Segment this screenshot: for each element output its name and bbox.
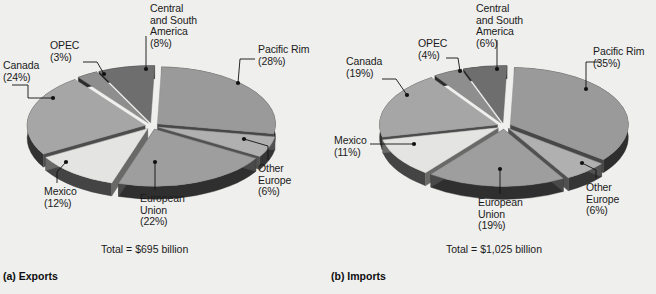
- label-other-europe-imports: OtherEurope(6%): [586, 182, 619, 217]
- label-opec-exports: OPEC(3%): [50, 40, 79, 63]
- label-canada-imports: Canada(19%): [346, 56, 382, 79]
- leader-line-opec: [446, 58, 460, 71]
- label-canada-exports: Canada(24%): [3, 60, 39, 83]
- leader-dot-opec: [458, 69, 462, 73]
- leader-dot-othereu: [242, 137, 246, 141]
- leader-line-pacific: [238, 59, 255, 83]
- leader-dot-canada: [405, 93, 409, 97]
- label-european-union-imports: EuropeanUnion(19%): [478, 197, 523, 232]
- panel-exports: Canada(24%) OPEC(3%) Centraland SouthAme…: [0, 0, 328, 294]
- total-imports: Total = $1,025 billion: [446, 243, 542, 255]
- label-european-union-exports: EuropeanUnion(22%): [140, 193, 185, 228]
- leader-dot-pacific: [236, 81, 240, 85]
- caption-exports: (a) Exports: [3, 270, 58, 282]
- label-central-south-america-imports: Centraland SouthAmerica(6%): [476, 3, 523, 49]
- leader-dot-csa: [495, 67, 499, 71]
- leader-dot-mexico: [64, 160, 68, 164]
- leader-dot-canada: [51, 96, 55, 100]
- leader-dot-pacific: [584, 87, 588, 91]
- trade-pie-figure: Canada(24%) OPEC(3%) Centraland SouthAme…: [0, 0, 656, 294]
- pie-slice-pacific-rim: [157, 67, 275, 134]
- label-pacific-rim-imports: Pacific Rim(35%): [593, 46, 644, 69]
- label-central-south-america-exports: Centraland SouthAmerica(8%): [150, 3, 197, 49]
- leader-dot-csa: [144, 67, 148, 71]
- label-opec-imports: OPEC(4%): [418, 38, 447, 61]
- leader-dot-othereu: [580, 161, 584, 165]
- caption-imports: (b) Imports: [331, 270, 386, 282]
- label-other-europe-exports: OtherEurope(6%): [258, 163, 291, 198]
- total-exports: Total = $695 billion: [101, 243, 188, 255]
- label-mexico-imports: Mexico(11%): [334, 135, 367, 158]
- panel-imports: Canada(19%) OPEC(4%) Centraland SouthAme…: [328, 0, 656, 294]
- leader-dot-eu: [153, 160, 157, 164]
- leader-dot-opec: [102, 72, 106, 76]
- leader-dot-eu: [498, 167, 502, 171]
- label-pacific-rim-exports: Pacific Rim(28%): [258, 44, 309, 67]
- leader-dot-mexico: [412, 142, 416, 146]
- label-mexico-exports: Mexico(12%): [44, 186, 77, 209]
